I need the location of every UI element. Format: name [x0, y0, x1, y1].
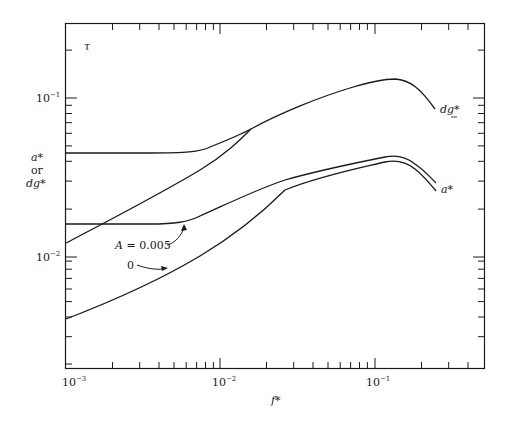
x-tick-label-1e-3: 10−3 [62, 375, 86, 389]
annotation-zero-arrow [137, 265, 164, 269]
y-ticks [66, 50, 484, 364]
plot-frame [66, 24, 485, 369]
arrowhead-icon [181, 224, 187, 231]
y-axis-label-line2: or [31, 164, 44, 177]
x-tick-label-1e-1: 10−1 [366, 375, 390, 389]
chart: 10−3 10−2 10−1 10−1 10−2 f* a* or dg* τ … [0, 0, 508, 429]
y-tick-label-1e-2: 10−2 [36, 250, 60, 264]
y-axis-label-line1: a* [31, 151, 44, 164]
x-axis-label: f* [270, 394, 281, 407]
arrowhead-icon [161, 266, 168, 271]
curve-dg-A0005 [66, 79, 435, 153]
x-tick-label-1e-2: 10−2 [212, 375, 236, 389]
curve-dg-A0 [66, 129, 251, 243]
curve-label-dg: dg* [440, 103, 460, 116]
annotation-zero: 0 [127, 259, 134, 272]
y-tick-label-1e-1: 10−1 [36, 91, 60, 105]
y-axis-label-line3: dg* [26, 177, 46, 190]
x-ticks [113, 24, 469, 368]
annotation-A: A = 0.005 [114, 239, 171, 252]
panel-label: τ [84, 40, 91, 53]
curve-label-a: a* [441, 183, 454, 196]
